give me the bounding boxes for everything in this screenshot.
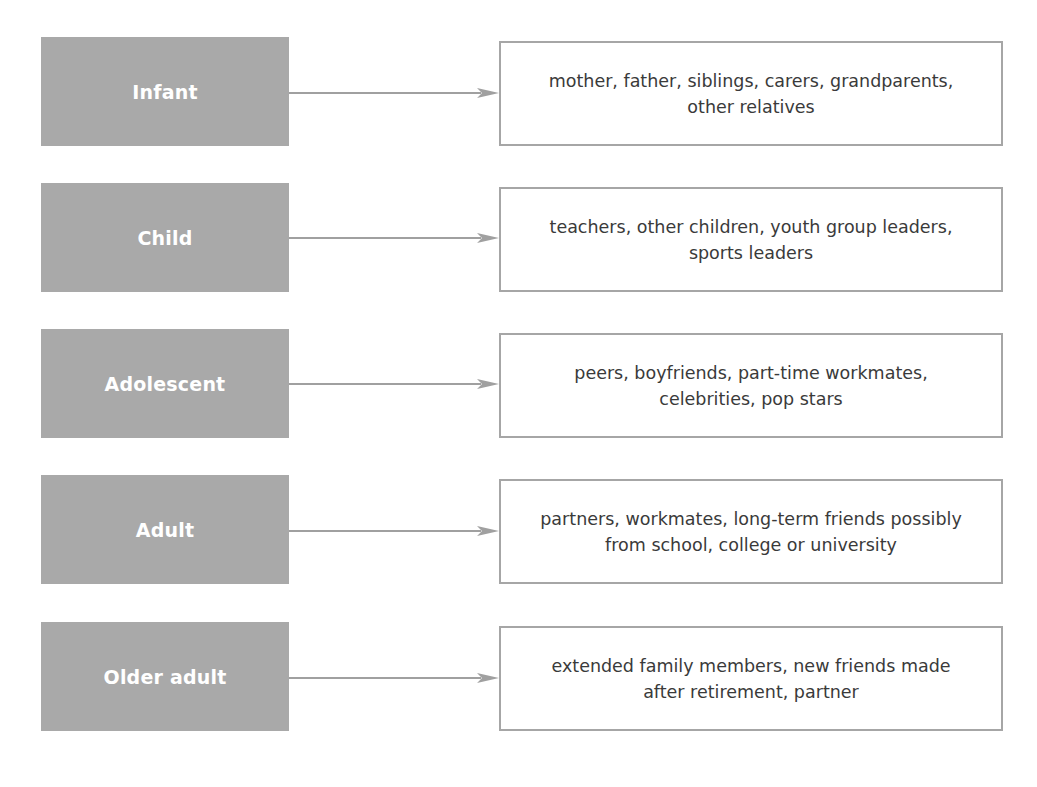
influence-box-adolescent: peers, boyfriends, part-time workmates, …: [499, 333, 1003, 438]
stage-box-infant: Infant: [41, 37, 289, 146]
stage-box-older-adult: Older adult: [41, 622, 289, 731]
influence-box-older-adult: extended family members, new friends mad…: [499, 626, 1003, 731]
influence-line-2: from school, college or university: [540, 532, 962, 558]
arrow-right-icon: [289, 232, 499, 244]
diagram-row-infant: Infant mother, father, siblings, carers,…: [0, 37, 1037, 149]
influence-text: extended family members, new friends mad…: [551, 653, 950, 705]
stage-box-adolescent: Adolescent: [41, 329, 289, 438]
arrow-right-icon: [289, 87, 499, 99]
influence-line-2: after retirement, partner: [551, 679, 950, 705]
influence-text: teachers, other children, youth group le…: [550, 214, 953, 266]
stage-label: Adult: [136, 519, 194, 541]
arrow-right-icon: [289, 525, 499, 537]
influence-text: peers, boyfriends, part-time workmates, …: [574, 360, 927, 412]
influence-text: partners, workmates, long-term friends p…: [540, 506, 962, 558]
diagram-row-child: Child teachers, other children, youth gr…: [0, 183, 1037, 295]
influence-line-1: partners, workmates, long-term friends p…: [540, 506, 962, 532]
stage-label: Infant: [132, 81, 198, 103]
influence-line-1: teachers, other children, youth group le…: [550, 214, 953, 240]
influence-box-infant: mother, father, siblings, carers, grandp…: [499, 41, 1003, 146]
diagram-row-older-adult: Older adult extended family members, new…: [0, 622, 1037, 734]
diagram-row-adult: Adult partners, workmates, long-term fri…: [0, 475, 1037, 587]
influence-box-adult: partners, workmates, long-term friends p…: [499, 479, 1003, 584]
stage-box-adult: Adult: [41, 475, 289, 584]
life-stages-influences-diagram: Infant mother, father, siblings, carers,…: [0, 0, 1037, 787]
arrow-right-icon: [289, 672, 499, 684]
stage-box-child: Child: [41, 183, 289, 292]
stage-label: Adolescent: [105, 373, 226, 395]
influence-text: mother, father, siblings, carers, grandp…: [549, 68, 954, 120]
influence-line-1: extended family members, new friends mad…: [551, 653, 950, 679]
stage-label: Child: [137, 227, 192, 249]
arrow-right-icon: [289, 378, 499, 390]
influence-line-2: other relatives: [549, 94, 954, 120]
influence-line-1: mother, father, siblings, carers, grandp…: [549, 68, 954, 94]
diagram-row-adolescent: Adolescent peers, boyfriends, part-time …: [0, 329, 1037, 441]
influence-line-2: sports leaders: [550, 240, 953, 266]
influence-box-child: teachers, other children, youth group le…: [499, 187, 1003, 292]
influence-line-2: celebrities, pop stars: [574, 386, 927, 412]
influence-line-1: peers, boyfriends, part-time workmates,: [574, 360, 927, 386]
stage-label: Older adult: [104, 666, 227, 688]
